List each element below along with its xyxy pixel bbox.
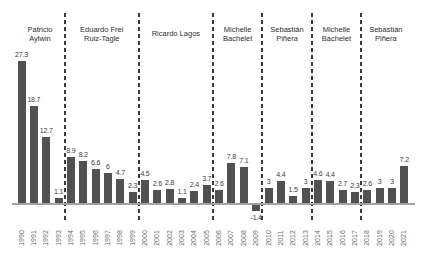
bar-2018 bbox=[363, 190, 371, 204]
x-axis-line bbox=[12, 203, 415, 205]
year-label-1996: 1996 bbox=[91, 223, 101, 253]
term-divider-1999 bbox=[138, 13, 140, 223]
year-label-1993: 1993 bbox=[54, 223, 64, 253]
bar-2009 bbox=[252, 204, 260, 211]
value-label-2000: 4.5 bbox=[132, 170, 158, 178]
bar-2001 bbox=[153, 190, 161, 204]
year-label-2018: 2018 bbox=[362, 223, 372, 253]
year-label-2014: 2014 bbox=[313, 223, 323, 253]
value-label-2021: 7.2 bbox=[391, 156, 417, 164]
value-label-1991: 18.7 bbox=[21, 96, 47, 104]
term-divider-2005 bbox=[212, 13, 214, 223]
value-label-2008: 7.1 bbox=[231, 157, 257, 165]
term-divider-2017 bbox=[360, 13, 362, 223]
year-label-1995: 1995 bbox=[78, 223, 88, 253]
bar-2016 bbox=[339, 190, 347, 204]
president-name-line: Piñera bbox=[344, 34, 428, 44]
term-divider-2009 bbox=[261, 13, 263, 223]
value-label-1995: 8.2 bbox=[70, 151, 96, 159]
year-label-2012: 2012 bbox=[288, 223, 298, 253]
value-label-1992: 12.7 bbox=[33, 127, 59, 135]
year-label-2010: 2010 bbox=[264, 223, 274, 253]
value-label-2015: 4.4 bbox=[317, 171, 343, 179]
year-label-2007: 2007 bbox=[226, 223, 236, 253]
value-label-2006: 2.6 bbox=[206, 180, 232, 188]
year-label-2005: 2005 bbox=[202, 223, 212, 253]
year-label-2006: 2006 bbox=[214, 223, 224, 253]
value-label-2010: 3 bbox=[256, 178, 282, 186]
president-name-line: Sebastián bbox=[344, 25, 428, 35]
president-name-line: Ruiz-Tagle bbox=[60, 34, 144, 44]
bar-1991 bbox=[30, 106, 38, 204]
bar-2019 bbox=[376, 188, 384, 204]
bar-2008 bbox=[240, 167, 248, 204]
year-label-2009: 2009 bbox=[251, 223, 261, 253]
value-label-1998: 4.7 bbox=[107, 169, 133, 177]
year-label-2001: 2001 bbox=[152, 223, 162, 253]
year-label-2021: 2021 bbox=[399, 223, 409, 253]
year-label-2004: 2004 bbox=[189, 223, 199, 253]
bar-1995 bbox=[79, 161, 87, 204]
year-label-1999: 1999 bbox=[128, 223, 138, 253]
year-label-1990: 1990 bbox=[17, 223, 27, 253]
year-label-1994: 1994 bbox=[66, 223, 76, 253]
bar-2006 bbox=[215, 190, 223, 204]
bar-2010 bbox=[265, 188, 273, 204]
bar-1994 bbox=[67, 157, 75, 204]
year-label-2019: 2019 bbox=[375, 223, 385, 253]
year-label-2003: 2003 bbox=[177, 223, 187, 253]
president-label-1994-1999: Eduardo FreiRuiz-Tagle bbox=[60, 23, 144, 45]
year-label-1998: 1998 bbox=[115, 223, 125, 253]
value-label-1990: 27.3 bbox=[9, 51, 35, 59]
president-label-2018-2021: SebastiánPiñera bbox=[344, 23, 428, 45]
bar-2020 bbox=[388, 188, 396, 204]
value-label-2020: 3 bbox=[379, 178, 405, 186]
bar-1990 bbox=[18, 61, 26, 204]
year-label-2015: 2015 bbox=[325, 223, 335, 253]
value-label-2004: 2.4 bbox=[181, 181, 207, 189]
year-label-2013: 2013 bbox=[301, 223, 311, 253]
year-label-1992: 1992 bbox=[41, 223, 51, 253]
year-label-2017: 2017 bbox=[350, 223, 360, 253]
value-label-1993: 1.1 bbox=[46, 188, 72, 196]
year-label-2008: 2008 bbox=[239, 223, 249, 253]
value-label-2013: 3 bbox=[293, 178, 319, 186]
year-label-1991: 1991 bbox=[29, 223, 39, 253]
term-divider-2013 bbox=[311, 13, 313, 223]
value-label-1999: 2.3 bbox=[120, 182, 146, 190]
president-name-line: Eduardo Frei bbox=[60, 25, 144, 35]
bar-chart-presidential-terms: PatricioAylwinEduardo FreiRuiz-TagleRica… bbox=[0, 0, 428, 259]
value-label-2009: -1.4 bbox=[243, 214, 269, 222]
bar-1996 bbox=[92, 169, 100, 204]
year-label-2000: 2000 bbox=[140, 223, 150, 253]
value-label-2003: 1.1 bbox=[169, 188, 195, 196]
value-label-2012: 1.5 bbox=[280, 186, 306, 194]
year-label-2020: 2020 bbox=[387, 223, 397, 253]
value-label-2011: 4.4 bbox=[268, 171, 294, 179]
value-label-2002: 2.8 bbox=[157, 179, 183, 187]
year-label-1997: 1997 bbox=[103, 223, 113, 253]
year-label-2016: 2016 bbox=[338, 223, 348, 253]
year-label-2002: 2002 bbox=[165, 223, 175, 253]
year-label-2011: 2011 bbox=[276, 223, 286, 253]
